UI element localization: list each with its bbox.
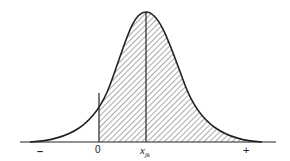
axis-label-minus: –: [37, 146, 43, 157]
axis-label-zero: 0: [95, 145, 101, 155]
normal-curve-diagram: [0, 0, 290, 161]
axis-label-plus: +: [243, 145, 249, 156]
xjk-subscript: jk: [145, 151, 150, 159]
axis-label-xjk: xjk: [140, 145, 150, 159]
